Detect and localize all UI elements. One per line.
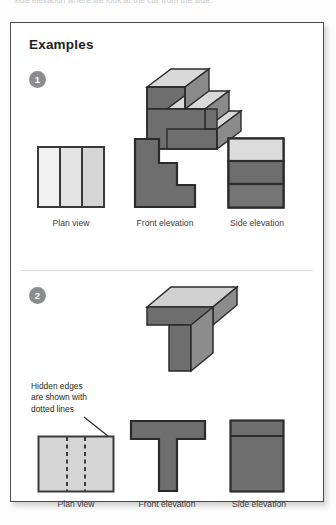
side-elevation-1 — [227, 137, 285, 209]
example-number-badge-1: 1 — [29, 71, 46, 88]
plan-view-2 — [37, 435, 115, 493]
plan-view-2-label: Plan view — [37, 499, 115, 509]
plan-view-1 — [37, 146, 105, 208]
side-elevation-2 — [229, 419, 285, 493]
front-elevation-2 — [129, 419, 207, 493]
hidden-edges-note: Hidden edges are shown with dotted lines — [31, 381, 131, 415]
front-elevation-1-label: Front elevation — [121, 218, 209, 228]
side-elevation-2-label: Side elevation — [217, 499, 301, 509]
plan-view-1-label: Plan view — [37, 218, 105, 228]
side-elevation-1-label: Side elevation — [215, 218, 299, 228]
cut-off-heading-text: side elevation where we look at the car … — [14, 0, 326, 8]
example-number-badge-2: 2 — [29, 287, 46, 304]
front-elevation-2-label: Front elevation — [121, 499, 213, 509]
examples-panel: Examples 1 — [10, 22, 324, 502]
section-divider — [21, 270, 313, 271]
figure-t-block-3d — [133, 281, 251, 373]
page-title: Examples — [29, 37, 94, 52]
front-elevation-1 — [133, 137, 197, 209]
